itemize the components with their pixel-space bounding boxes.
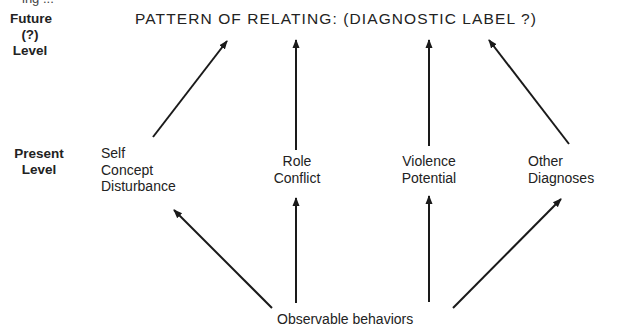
- node-line: Diagnoses: [528, 170, 594, 187]
- node-line: Other: [528, 153, 594, 170]
- present-level-line1: Present: [12, 146, 66, 162]
- node-other-diagnoses: Other Diagnoses: [528, 153, 594, 186]
- present-level-label: Present Level: [12, 146, 66, 178]
- node-line: Self: [101, 145, 176, 162]
- node-line: Conflict: [266, 170, 328, 187]
- present-level-line2: Level: [12, 162, 66, 178]
- node-line: Violence: [393, 153, 465, 170]
- arrow-other-diagnoses-to-pattern: [489, 40, 569, 144]
- node-violence-potential: Violence Potential: [393, 153, 465, 186]
- pattern-of-relating-title: PATTERN OF RELATING: (DIAGNOSTIC LABEL ?…: [135, 10, 537, 28]
- diagnostic-pattern-diagram: ing ... Future (?) Level PATTERN OF RELA…: [0, 0, 617, 334]
- node-line: Disturbance: [101, 178, 176, 195]
- cut-off-caption: ing ...: [22, 0, 54, 6]
- node-line: Potential: [393, 170, 465, 187]
- node-self-concept-disturbance: Self Concept Disturbance: [101, 145, 176, 195]
- future-level-line1: Future: [10, 11, 50, 27]
- future-level-line3: Level: [10, 43, 50, 59]
- node-line: Role: [266, 153, 328, 170]
- arrow-self-concept-to-pattern: [153, 41, 227, 137]
- node-role-conflict: Role Conflict: [266, 153, 328, 186]
- node-line: Concept: [101, 162, 176, 179]
- future-level-line2: (?): [10, 27, 50, 43]
- future-level-label: Future (?) Level: [10, 11, 50, 59]
- arrow-behaviors-to-self-concept: [174, 210, 272, 308]
- observable-behaviors-label: Observable behaviors: [277, 311, 413, 328]
- arrow-behaviors-to-other-diagnoses: [453, 199, 561, 308]
